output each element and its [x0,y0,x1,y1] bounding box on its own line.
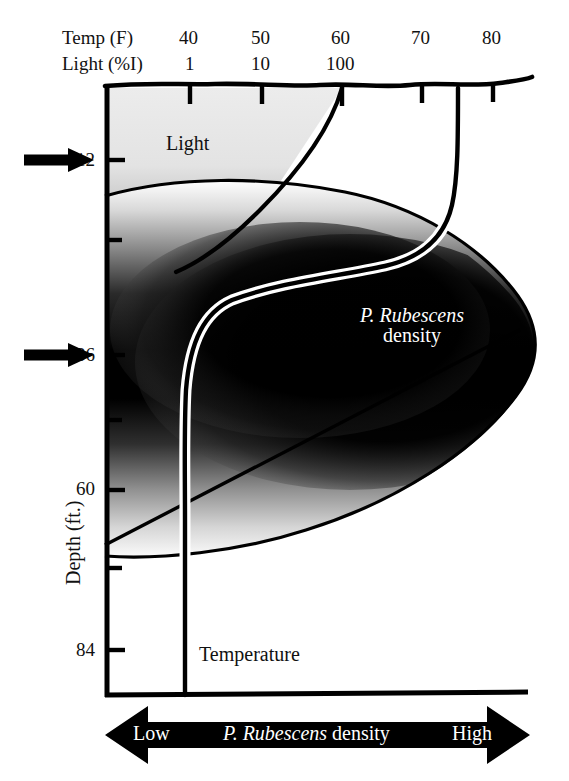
density-blob [105,180,565,557]
bottom-axis-line [105,692,528,695]
scale-bar-title-word: density [327,722,390,744]
scale-bar-title: P. Rubescens density [223,723,390,743]
temperature-annotation: Temperature [199,644,300,664]
scale-bar-high-label: High [452,723,492,743]
scale-bar-title-species: P. Rubescens [223,722,327,744]
depth-marker-arrow-36 [24,343,94,367]
scale-bar-low-label: Low [133,723,170,743]
light-annotation: Light [166,133,209,153]
depth-profile-figure: Temp (F) Light (%I) 40 50 60 70 80 1 10 … [0,0,569,781]
density-annotation-species: P. Rubescens [360,304,464,326]
depth-marker-arrow-12 [24,148,94,172]
density-annotation-word: density [383,324,441,346]
top-axis-line [105,77,532,86]
density-annotation: P. Rubescens density [337,305,487,345]
